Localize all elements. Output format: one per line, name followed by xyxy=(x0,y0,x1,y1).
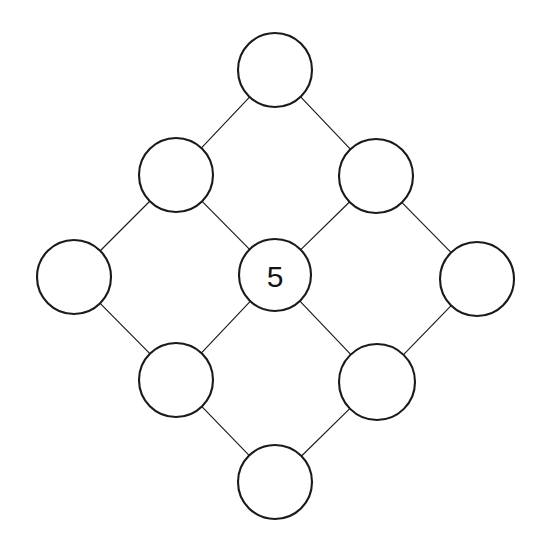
edge-upper-right-to-center xyxy=(301,202,349,249)
edge-center-to-lower-right xyxy=(300,301,350,354)
node-circle-left[interactable] xyxy=(37,240,111,314)
node-right[interactable] xyxy=(440,242,514,316)
edge-upper-left-to-left xyxy=(101,202,150,251)
node-left[interactable] xyxy=(37,240,111,314)
edge-top-to-upper-left xyxy=(202,97,250,147)
node-center[interactable]: 5 xyxy=(239,239,311,311)
node-circle-top[interactable] xyxy=(238,33,312,107)
edge-lower-right-to-bottom xyxy=(302,409,350,456)
node-upper-left[interactable] xyxy=(139,138,213,212)
node-lower-left[interactable] xyxy=(139,343,213,417)
node-bottom[interactable] xyxy=(238,445,312,519)
edge-right-to-lower-right xyxy=(404,306,451,354)
node-top[interactable] xyxy=(238,33,312,107)
node-layer: 5 xyxy=(37,33,514,519)
edge-upper-left-to-center xyxy=(202,202,249,249)
edge-center-to-lower-left xyxy=(202,302,250,353)
node-lower-right[interactable] xyxy=(339,344,415,420)
node-circle-bottom[interactable] xyxy=(238,445,312,519)
node-label-center: 5 xyxy=(267,260,284,293)
node-circle-right[interactable] xyxy=(440,242,514,316)
node-circle-upper-left[interactable] xyxy=(139,138,213,212)
edge-lower-left-to-bottom xyxy=(202,407,249,455)
node-circle-lower-right[interactable] xyxy=(339,344,415,420)
edge-upper-right-to-right xyxy=(402,203,450,252)
node-circle-upper-right[interactable] xyxy=(339,139,413,213)
node-upper-right[interactable] xyxy=(339,139,413,213)
node-circle-lower-left[interactable] xyxy=(139,343,213,417)
edge-left-to-lower-left xyxy=(100,304,149,354)
edge-top-to-upper-right xyxy=(301,97,350,149)
puzzle-diagram-canvas: 5 xyxy=(0,0,545,551)
node-link-diagram: 5 xyxy=(0,0,545,551)
